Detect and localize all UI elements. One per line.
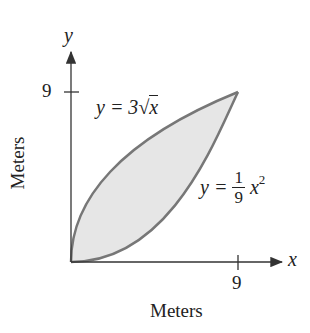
curve-sqrt-label: y = 3√x: [96, 96, 158, 119]
sqrt-sign: √: [138, 96, 149, 118]
x-tick-label: 9: [232, 272, 242, 294]
exponent: 2: [259, 172, 266, 188]
x-axis-symbol: x: [288, 248, 297, 271]
fraction-numerator: 1: [232, 168, 245, 188]
curve-parabola-var: x: [250, 176, 259, 199]
curve-sqrt-lhs: y = 3: [96, 96, 138, 118]
fraction-denominator: 9: [234, 188, 243, 207]
plot-canvas: [0, 0, 310, 333]
fraction: 1 9: [232, 168, 245, 207]
x-axis-title: Meters: [150, 300, 203, 322]
curve-parabola-label: y = 1 9 x2: [200, 168, 265, 207]
y-axis-symbol: y: [64, 24, 73, 47]
curve-sqrt-radicand: x: [149, 95, 158, 118]
y-tick-label: 9: [42, 80, 52, 102]
y-axis-title: Meters: [7, 137, 29, 190]
curve-parabola-lhs: y =: [200, 176, 227, 199]
